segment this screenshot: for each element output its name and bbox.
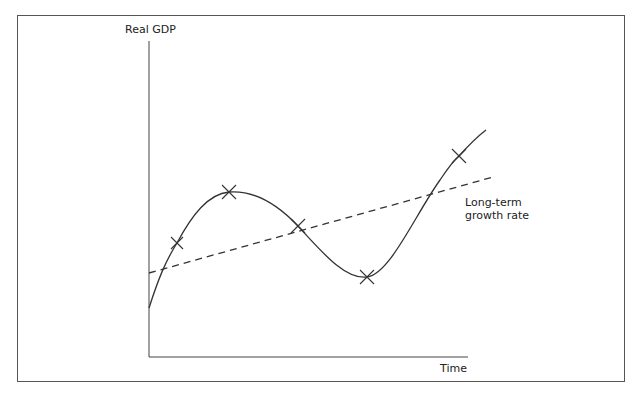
marker-icon: [171, 237, 183, 249]
trend-line: [149, 177, 493, 273]
cycle-markers: [171, 149, 466, 284]
gdp-curve: [149, 130, 486, 308]
marker-icon: [291, 219, 305, 233]
trend-annotation: Long-term growth rate: [465, 196, 545, 222]
marker-icon: [452, 149, 466, 163]
y-axis-label: Real GDP: [125, 23, 176, 36]
x-axis-label: Time: [440, 362, 467, 375]
